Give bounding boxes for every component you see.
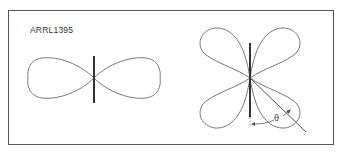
angle-arrowhead-left [251, 122, 255, 126]
theta-symbol: θ [274, 113, 279, 123]
angle-arc [252, 120, 274, 124]
radiation-patterns: θ [0, 0, 344, 153]
